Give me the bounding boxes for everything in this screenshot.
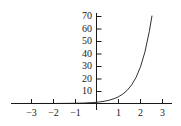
- y-tick-label-60: 60: [72, 24, 92, 34]
- y-tick-label-50: 50: [72, 36, 92, 46]
- y-tick-label-70: 70: [72, 11, 92, 21]
- x-tick-label-1: 1: [112, 108, 126, 118]
- exponential-curve-figure: 70 60 50 40 30 20 10 −3 −2 −1 1 2 3: [0, 0, 181, 126]
- x-tick-label-2: 2: [134, 108, 148, 118]
- y-axis-ticks: [97, 17, 102, 92]
- y-tick-label-10: 10: [72, 86, 92, 96]
- x-tick-label--2: −2: [47, 108, 61, 118]
- y-tick-label-30: 30: [72, 61, 92, 71]
- x-tick-label--3: −3: [25, 108, 39, 118]
- x-tick-label-3: 3: [156, 108, 170, 118]
- x-tick-label--1: −1: [69, 108, 83, 118]
- y-tick-label-20: 20: [72, 74, 92, 84]
- y-tick-label-40: 40: [72, 49, 92, 59]
